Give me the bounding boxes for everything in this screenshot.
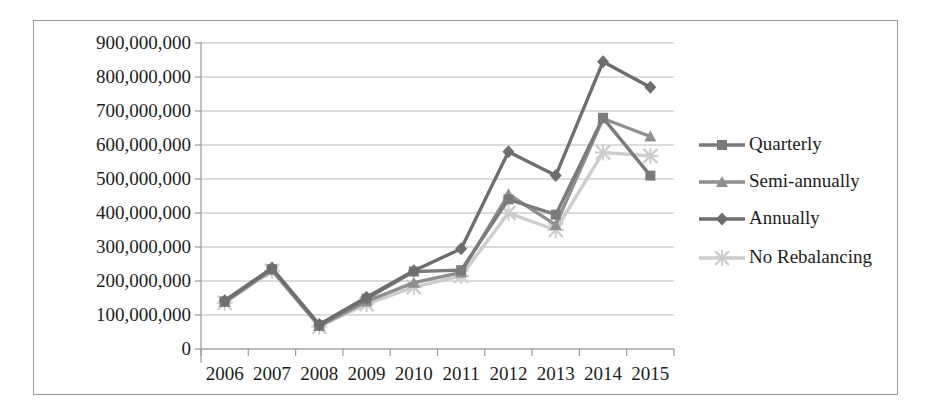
series-line (225, 62, 651, 325)
y-axis-tick-label: 200,000,000 (34, 270, 191, 292)
y-axis-tick-label: 700,000,000 (34, 100, 191, 122)
y-axis-tick-label: 800,000,000 (34, 66, 191, 88)
diamond-marker-icon (716, 213, 728, 226)
y-axis-tick-label: 0 (34, 338, 191, 360)
y-axis (195, 42, 201, 363)
legend-marker-quarterly (698, 133, 748, 157)
chart-frame: 0100,000,000200,000,000300,000,000400,00… (33, 20, 898, 395)
series-annually (219, 55, 657, 331)
square-marker-icon (645, 171, 655, 181)
legend-label-semi-annually[interactable]: Semi-annually (749, 170, 860, 191)
legend-marker-no-rebalancing (698, 246, 748, 270)
y-axis-tick-label: 500,000,000 (34, 168, 191, 190)
cross-marker-icon (595, 144, 611, 160)
y-axis-tick-label: 300,000,000 (34, 236, 191, 258)
x-axis-tick-label: 2015 (622, 363, 678, 385)
diamond-marker-icon (502, 145, 514, 158)
square-marker-icon (551, 210, 561, 220)
chart-page: 0100,000,000200,000,000300,000,000400,00… (0, 0, 928, 416)
cross-marker-icon (642, 148, 658, 164)
square-marker-icon (598, 113, 608, 123)
legend-marker-semi-annually (698, 170, 748, 194)
series-line (225, 118, 651, 325)
diamond-marker-icon (597, 55, 609, 68)
legend-label-no-rebalancing[interactable]: No Rebalancing (749, 246, 889, 267)
x-axis (201, 349, 674, 356)
legend-marker-annually (698, 207, 748, 231)
diamond-marker-icon (455, 242, 467, 255)
series-no-rebalancing (217, 144, 659, 334)
legend-label-annually[interactable]: Annually (749, 207, 820, 228)
diamond-marker-icon (644, 81, 656, 94)
square-marker-icon (503, 194, 513, 204)
y-axis-tick-label: 600,000,000 (34, 134, 191, 156)
diamond-marker-icon (550, 169, 562, 182)
y-axis-tick-label: 400,000,000 (34, 202, 191, 224)
gridlines (201, 43, 674, 349)
square-marker-icon (717, 140, 727, 150)
y-axis-tick-label: 900,000,000 (34, 32, 191, 54)
cross-marker-icon (714, 250, 730, 266)
y-axis-tick-label: 100,000,000 (34, 304, 191, 326)
square-marker-icon (456, 265, 466, 275)
legend-label-quarterly[interactable]: Quarterly (749, 133, 822, 154)
